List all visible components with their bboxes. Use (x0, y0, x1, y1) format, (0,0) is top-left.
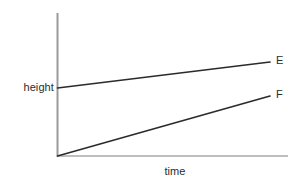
series-label-f: F (276, 88, 283, 100)
chart-figure: height time E F (0, 0, 300, 193)
x-axis-label: time (145, 165, 205, 177)
y-axis-label: height (14, 81, 54, 93)
series-label-e: E (276, 54, 283, 66)
series-line-f (58, 96, 271, 156)
series-line-e (58, 62, 271, 88)
